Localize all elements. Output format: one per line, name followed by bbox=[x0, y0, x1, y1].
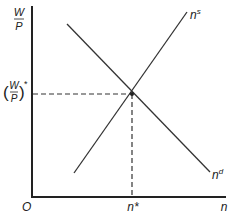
demand-curve-label: nd bbox=[212, 167, 224, 182]
origin-label: O bbox=[22, 200, 31, 212]
supply-curve bbox=[74, 12, 187, 173]
x-axis-label: n bbox=[221, 200, 228, 212]
y-axis-label-denominator: P bbox=[15, 20, 23, 32]
labor-market-diagram: W P ( W P ) * ns nd O n* n bbox=[0, 0, 232, 212]
eq-wage-label-denominator: P bbox=[11, 93, 18, 104]
eq-wage-label-open-paren: ( bbox=[3, 83, 9, 102]
equilibrium-point bbox=[130, 92, 134, 96]
eq-wage-label-star: * bbox=[24, 79, 28, 89]
supply-curve-label: ns bbox=[190, 7, 201, 22]
eq-quantity-label: n* bbox=[127, 200, 139, 212]
y-axis-label-numerator: W bbox=[14, 6, 26, 18]
demand-curve bbox=[67, 24, 210, 172]
